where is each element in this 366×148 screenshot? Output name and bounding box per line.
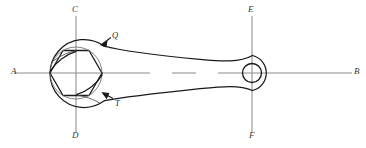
technical-drawing-figure: A B C D E F Q T [0,0,366,148]
handle-lower-edge [105,87,253,101]
socket-corner-tick-bottom [76,94,77,95]
point-label-t: T [115,99,120,108]
socket-corner-tick-top [76,51,77,52]
axis-label-b: B [354,67,360,76]
axis-label-a: A [11,67,17,76]
axis-label-f: F [249,131,255,140]
socket-corner-tick-left [50,71,51,73]
centerlines-group [14,16,352,132]
axis-label-c: C [72,5,78,14]
point-label-q: Q [112,31,118,40]
axis-label-d: D [72,131,79,140]
leader-arrowhead-t [103,93,109,98]
wrench-drawing-canvas [0,0,366,148]
axis-label-e: E [248,5,254,14]
handle-upper-edge [104,46,253,61]
socket-depth-edge-lower [77,75,102,94]
